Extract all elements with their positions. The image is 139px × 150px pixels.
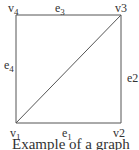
figure-caption: Example of a graph — [12, 136, 130, 150]
edge-diagonal — [16, 15, 121, 123]
edge-label-e4: e4 — [4, 59, 14, 75]
edge-label-e3: e3 — [55, 2, 65, 18]
edge-label-e2: e2 — [127, 72, 138, 84]
vertex-label-v3: v3 — [115, 2, 127, 14]
vertex-label-v4: v4 — [8, 2, 19, 18]
